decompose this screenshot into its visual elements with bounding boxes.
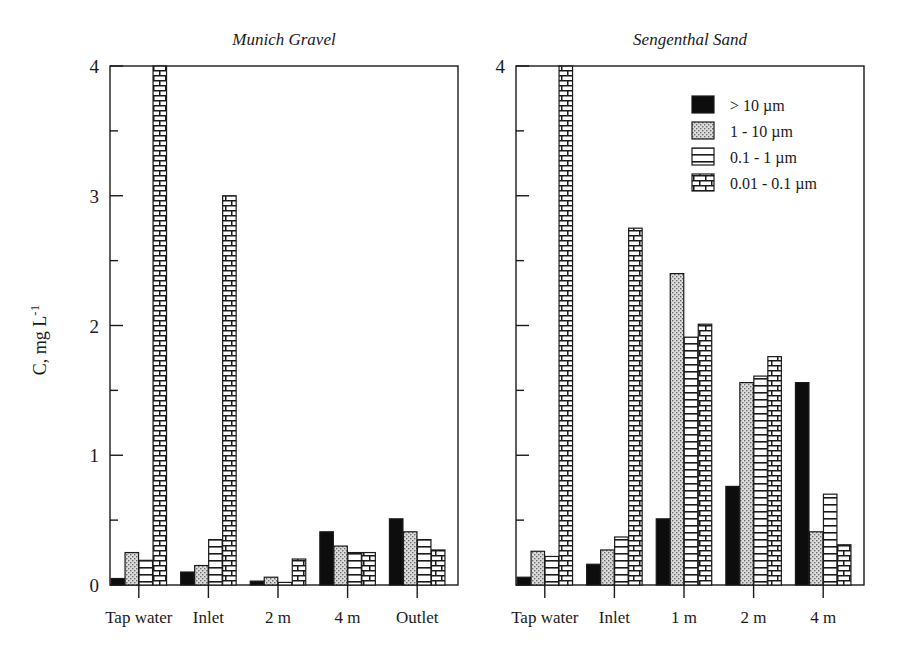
x-axis-category-label: 2 m (741, 608, 767, 627)
bar-brick (153, 66, 167, 585)
legend: > 10 µm1 - 10 µm0.1 - 1 µm0.01 - 0.1 µm (692, 96, 818, 193)
bar-solid-black (389, 519, 403, 585)
bars-left (111, 66, 445, 585)
bar-brick (837, 545, 851, 585)
x-axis-category-label: 2 m (265, 608, 291, 627)
bar-horizontal-lines (615, 537, 629, 585)
legend-label: 1 - 10 µm (730, 123, 794, 141)
bar-solid-black (656, 519, 670, 585)
legend-swatch-brick (692, 174, 714, 191)
bar-stipple-dots (264, 577, 278, 585)
bar-horizontal-lines (823, 494, 837, 585)
bar-brick (559, 66, 573, 585)
bar-solid-black (111, 579, 125, 585)
bar-brick (223, 196, 237, 585)
x-axis-category-label: 1 m (671, 608, 697, 627)
bar-chart-svg: Munich Gravel 01234 Tap waterInlet2 m4 m… (0, 0, 916, 657)
legend-label: 0.01 - 0.1 µm (730, 175, 818, 193)
y-axis-left: 01234 (90, 56, 124, 596)
bar-solid-black (726, 486, 740, 585)
bar-solid-black (320, 532, 334, 585)
x-axis-category-label: 4 m (335, 608, 361, 627)
bar-horizontal-lines (348, 553, 362, 585)
y-tick-label: 1 (90, 445, 100, 466)
bar-horizontal-lines (139, 560, 153, 585)
bar-stipple-dots (403, 532, 417, 585)
y-tick-label: 3 (90, 186, 100, 207)
bar-stipple-dots (809, 532, 823, 585)
bar-horizontal-lines (209, 540, 223, 585)
y-tick-label: 0 (90, 575, 100, 596)
panel-title-left: Munich Gravel (231, 30, 336, 49)
x-axis-right: Tap waterInlet1 m2 m4 m (511, 585, 836, 627)
bar-horizontal-lines (684, 337, 698, 585)
x-axis-category-label: Inlet (599, 608, 630, 627)
panel-munich-gravel: Munich Gravel 01234 Tap waterInlet2 m4 m… (90, 30, 459, 627)
y-axis-title: C, mg L-1 (27, 305, 50, 375)
bar-brick (292, 559, 306, 585)
figure-root: Munich Gravel 01234 Tap waterInlet2 m4 m… (0, 0, 916, 657)
bar-stipple-dots (334, 546, 348, 585)
legend-swatch-stipple-dots (692, 122, 714, 139)
bar-brick (698, 324, 712, 585)
panel-title-right: Sengenthal Sand (633, 30, 747, 49)
x-axis-category-label: Outlet (396, 608, 439, 627)
bar-horizontal-lines (545, 556, 559, 585)
bar-stipple-dots (125, 553, 139, 585)
panel-sengenthal-sand: Sengenthal Sand 4 Tap waterInlet1 m2 m4 … (496, 30, 865, 627)
bar-stipple-dots (601, 550, 615, 585)
bar-stipple-dots (740, 383, 754, 585)
x-axis-category-label: Tap water (105, 608, 173, 627)
bar-brick (768, 357, 782, 585)
bar-brick (362, 553, 376, 585)
bar-stipple-dots (670, 274, 684, 585)
bars-right (517, 66, 851, 585)
bar-solid-black (250, 581, 264, 585)
bar-brick (629, 228, 643, 585)
y-tick-label: 4 (90, 56, 100, 77)
bar-solid-black (517, 577, 531, 585)
y-axis-title-text: C, mg L-1 (27, 305, 50, 375)
x-axis-category-label: 4 m (810, 608, 836, 627)
bar-brick (431, 550, 445, 585)
bar-stipple-dots (531, 551, 545, 585)
bar-horizontal-lines (417, 540, 431, 585)
y-axis-right: 4 (496, 56, 530, 585)
legend-swatch-horizontal-lines (692, 148, 714, 165)
x-axis-left: Tap waterInlet2 m4 mOutlet (105, 585, 439, 627)
legend-swatch-solid-black (692, 96, 714, 113)
legend-label: > 10 µm (730, 97, 785, 115)
bar-solid-black (587, 564, 601, 585)
x-axis-category-label: Inlet (193, 608, 224, 627)
bar-stipple-dots (195, 566, 209, 585)
bar-horizontal-lines (754, 376, 768, 585)
y-tick-label: 2 (90, 316, 100, 337)
y-tick-label: 4 (496, 56, 506, 77)
x-axis-category-label: Tap water (511, 608, 579, 627)
bar-horizontal-lines (278, 582, 292, 585)
legend-label: 0.1 - 1 µm (730, 149, 798, 167)
bar-solid-black (795, 383, 809, 585)
bar-solid-black (181, 572, 195, 585)
